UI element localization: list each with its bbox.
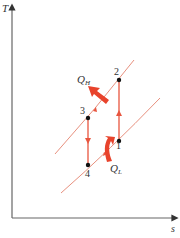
q-h-sub: H — [85, 79, 90, 87]
heat-absorption-arrow-icon — [105, 136, 115, 162]
point-label-4: 4 — [85, 169, 90, 179]
q-h-main: Q — [77, 73, 85, 85]
y-axis-label: T — [2, 3, 8, 14]
heat-absorbed-label: QL — [110, 163, 122, 176]
q-l-main: Q — [110, 162, 118, 174]
point-label-2: 2 — [114, 67, 119, 77]
point-label-1: 1 — [116, 141, 121, 151]
state-point-3 — [86, 116, 90, 120]
point-label-3: 3 — [80, 106, 85, 116]
x-axis-label: s — [171, 224, 175, 234]
low-pressure-isobar — [61, 98, 160, 193]
state-point-2 — [117, 78, 121, 82]
q-l-sub: L — [118, 168, 122, 176]
arrow-1-2-icon — [116, 110, 122, 116]
high-pressure-isobar — [55, 60, 134, 154]
heat-rejected-label: QH — [77, 74, 90, 87]
arrow-3-4-icon — [85, 138, 91, 144]
state-point-4 — [86, 163, 90, 167]
ts-diagram — [0, 0, 180, 238]
